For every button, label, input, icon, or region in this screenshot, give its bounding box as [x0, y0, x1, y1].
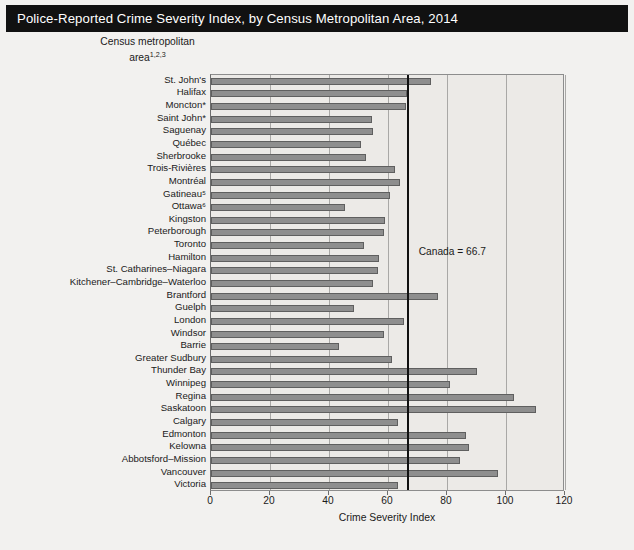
- category-label: Montréal: [16, 176, 206, 186]
- category-label: Greater Sudbury: [16, 353, 206, 363]
- category-label: Saguenay: [16, 125, 206, 135]
- category-label: Kitchener–Cambridge–Waterloo: [16, 277, 206, 287]
- category-label: Moncton*: [16, 100, 206, 110]
- category-label: Hamilton: [16, 252, 206, 262]
- category-label: Peterborough: [16, 226, 206, 236]
- category-label: Vancouver: [16, 467, 206, 477]
- gridline-120: [565, 75, 566, 490]
- bar: [211, 419, 398, 426]
- category-label-list: St. John'sHalifaxMoncton*Saint John*Sagu…: [14, 74, 206, 491]
- bar: [211, 255, 379, 262]
- bar: [211, 381, 450, 388]
- category-label: Windsor: [16, 328, 206, 338]
- bar: [211, 432, 466, 439]
- category-label: Kelowna: [16, 441, 206, 451]
- bar: [211, 116, 372, 123]
- bar: [211, 229, 384, 236]
- plot-area: [210, 74, 564, 491]
- category-label: Victoria: [16, 479, 206, 489]
- reference-line-label: Canada = 66.7: [419, 246, 486, 257]
- bar: [211, 103, 406, 110]
- category-label: Québec: [16, 138, 206, 148]
- category-label: Thunder Bay: [16, 365, 206, 375]
- category-label: Regina: [16, 391, 206, 401]
- category-label: Sherbrooke: [16, 151, 206, 161]
- bar: [211, 368, 477, 375]
- bar: [211, 192, 390, 199]
- bar: [211, 331, 384, 338]
- category-label: Edmonton: [16, 429, 206, 439]
- x-axis-title: Crime Severity Index: [210, 512, 564, 523]
- y-axis-title-line1: Census metropolitan: [100, 36, 194, 47]
- category-label: Barrie: [16, 340, 206, 350]
- x-tick-label: 120: [556, 495, 573, 506]
- bar: [211, 267, 378, 274]
- category-label: Guelph: [16, 302, 206, 312]
- x-tick-label: 40: [322, 495, 333, 506]
- bar: [211, 470, 498, 477]
- bar: [211, 293, 438, 300]
- x-tick-label: 0: [207, 495, 213, 506]
- x-tick-label: 20: [263, 495, 274, 506]
- bar: [211, 128, 373, 135]
- chart-figure: Police-Reported Crime Severity Index, by…: [0, 0, 634, 550]
- category-label: London: [16, 315, 206, 325]
- bar: [211, 356, 392, 363]
- category-label: Saint John*: [16, 113, 206, 123]
- category-label: Brantford: [16, 290, 206, 300]
- gridline-80: [447, 75, 448, 490]
- bar: [211, 179, 400, 186]
- y-axis-title-line2: area: [129, 52, 150, 63]
- category-label: Halifax: [16, 87, 206, 97]
- chart-title-bar: Police-Reported Crime Severity Index, by…: [6, 5, 628, 32]
- category-label: St. Catharines–Niagara: [16, 264, 206, 274]
- category-label: Gatineau⁵: [16, 189, 206, 199]
- bar: [211, 280, 373, 287]
- category-label: Winnipeg: [16, 378, 206, 388]
- bar: [211, 457, 460, 464]
- bar: [211, 204, 345, 211]
- category-label: Saskatoon: [16, 403, 206, 413]
- page-title: Police-Reported Crime Severity Index, by…: [6, 11, 458, 26]
- x-tick-label: 80: [440, 495, 451, 506]
- bar: [211, 406, 536, 413]
- category-label: Kingston: [16, 214, 206, 224]
- category-label: Abbotsford–Mission: [16, 454, 206, 464]
- bar: [211, 90, 407, 97]
- x-tick-label: 100: [497, 495, 514, 506]
- bar: [211, 242, 364, 249]
- bar: [211, 482, 398, 489]
- bar: [211, 394, 514, 401]
- bar: [211, 444, 469, 451]
- category-label: Toronto: [16, 239, 206, 249]
- category-label: Calgary: [16, 416, 206, 426]
- gridline-100: [506, 75, 507, 490]
- bar: [211, 318, 404, 325]
- y-axis-title: Census metropolitan area1,2,3: [80, 36, 215, 64]
- bar: [211, 78, 431, 85]
- gridline-60: [388, 75, 389, 490]
- bar: [211, 154, 366, 161]
- y-axis-title-superscript: 1,2,3: [150, 50, 166, 59]
- bar: [211, 217, 385, 224]
- x-tick-label: 60: [381, 495, 392, 506]
- bar: [211, 141, 361, 148]
- bar: [211, 305, 354, 312]
- category-label: Ottawa⁶: [16, 201, 206, 211]
- bar: [211, 343, 339, 350]
- reference-line: [407, 75, 409, 490]
- category-label: Trois-Rivières: [16, 163, 206, 173]
- category-label: St. John's: [16, 75, 206, 85]
- bar: [211, 166, 395, 173]
